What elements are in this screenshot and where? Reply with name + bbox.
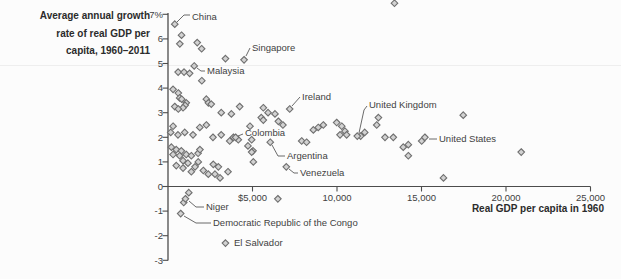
data-point [177, 41, 184, 48]
data-point [170, 86, 177, 93]
data-point [373, 122, 380, 129]
data-point [260, 104, 267, 111]
growth-vs-gdp-scatter-chart: 7%6543210-1-2-3$5,00010,00015,00020,0002… [0, 0, 621, 279]
data-point [180, 165, 187, 172]
y-tick-label-7: 7% [149, 9, 163, 20]
country-label-united-kingdom: United Kingdom [369, 99, 437, 110]
data-point [196, 124, 203, 131]
data-point [222, 55, 229, 62]
data-point-democratic-republic-of-the-congo [177, 210, 184, 217]
data-point [250, 159, 257, 166]
data-point [198, 45, 205, 52]
data-point [203, 122, 210, 129]
data-point [190, 132, 197, 139]
data-point [440, 175, 447, 182]
data-point [181, 129, 188, 136]
y-tick-label-3: 3 [158, 107, 163, 118]
data-point [218, 132, 225, 139]
data-point [275, 196, 282, 203]
country-label-ireland: Ireland [302, 91, 331, 102]
x-axis-title: Real GDP per capita in 1960 [472, 203, 605, 214]
y-tick-label--1: -1 [155, 205, 163, 216]
data-point [199, 77, 206, 84]
data-point [518, 149, 525, 156]
data-point [186, 70, 193, 77]
leader-line-venezuela [289, 169, 298, 173]
data-point [173, 162, 180, 169]
y-axis-title-line-1: Average annual growth [40, 10, 150, 21]
scan-artifact-line [0, 65, 621, 66]
data-point-venezuela [283, 164, 290, 171]
country-label-argentina: Argentina [287, 150, 328, 161]
data-point [194, 39, 201, 46]
y-tick-label-4: 4 [158, 82, 163, 93]
data-point [175, 132, 182, 139]
x-tick-label-10000: 10,000 [322, 192, 351, 203]
leader-line-ireland [292, 97, 300, 106]
data-point [382, 134, 389, 141]
leader-line-niger [189, 201, 204, 207]
leader-line-singapore [246, 48, 250, 56]
data-point [217, 175, 224, 182]
country-label-niger: Niger [206, 201, 229, 212]
data-point [375, 114, 382, 121]
data-point [228, 111, 235, 118]
y-tick-label-6: 6 [158, 33, 163, 44]
data-point [185, 189, 192, 196]
x-tick-label-20000: 20,000 [491, 192, 520, 203]
country-label-el-salvador: El Salvador [234, 237, 283, 248]
leader-line-malaysia [197, 68, 205, 71]
country-label-malaysia: Malaysia [207, 65, 245, 76]
data-point [218, 109, 225, 116]
x-tick-label-15000: 15,000 [407, 192, 436, 203]
data-point [460, 112, 467, 119]
data-point [390, 134, 397, 141]
data-point [210, 134, 217, 141]
country-label-venezuela: Venezuela [300, 167, 345, 178]
x-tick-label-25000: 25,000 [576, 192, 605, 203]
country-label-democratic-republic-of-the-congo: Democratic Republic of the Congo [213, 217, 358, 228]
data-point [181, 69, 188, 76]
data-point-el-salvador [222, 240, 229, 247]
data-point [178, 32, 185, 39]
y-axis-title-line-2: rate of real GDP per [56, 28, 150, 39]
country-callouts: ChinaSingaporeMalaysiaIrelandColombiaArg… [177, 11, 496, 248]
data-point [272, 111, 279, 118]
leader-line-argentina [272, 145, 285, 156]
y-axis-title-line-3: capita, 1960–2011 [66, 45, 150, 56]
textbook-figure-page: 7%6543210-1-2-3$5,00010,00015,00020,0002… [0, 0, 621, 279]
leader-line-colombia [238, 134, 243, 136]
data-point [391, 0, 398, 7]
y-tick-label-0: 0 [158, 181, 163, 192]
y-tick-label-2: 2 [158, 132, 163, 143]
data-point [236, 103, 243, 110]
data-point-ireland [286, 106, 293, 113]
data-point [265, 109, 272, 116]
data-point-argentina [267, 139, 274, 146]
country-label-china: China [192, 11, 218, 22]
country-label-united-states: United States [439, 133, 496, 144]
y-tick-label-1: 1 [158, 156, 163, 167]
country-label-singapore: Singapore [252, 42, 295, 53]
data-point [212, 171, 219, 178]
country-label-colombia: Colombia [245, 127, 286, 138]
data-point [245, 143, 252, 150]
y-tick-label--2: -2 [155, 230, 163, 241]
y-tick-label--3: -3 [155, 255, 163, 266]
leader-line-democratic-republic-of-the-congo [184, 216, 211, 223]
leader-line-china [177, 15, 190, 22]
data-point-singapore [241, 57, 248, 64]
x-tick-label-5000: $5,000 [238, 192, 267, 203]
data-point [405, 152, 412, 159]
data-point [225, 168, 232, 175]
data-point [333, 119, 340, 126]
leader-line-united-kingdom [359, 106, 367, 133]
y-tick-label-5: 5 [158, 58, 163, 69]
